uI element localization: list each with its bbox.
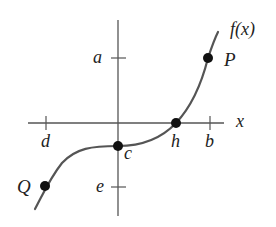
point-c (113, 141, 123, 151)
point-label-q: Q (17, 177, 31, 196)
point-label-c: c (124, 144, 132, 162)
point-p (203, 53, 213, 63)
x-tick-label-b: b (205, 132, 214, 150)
function-label: f(x) (230, 20, 255, 38)
point-label-p: P (224, 50, 236, 69)
point-q (40, 181, 50, 191)
y-tick-label-e: e (96, 177, 104, 195)
point-label-h: h (171, 132, 180, 150)
y-tick-label-a: a (93, 48, 102, 66)
function-curve (35, 32, 218, 209)
x-axis-label: x (236, 112, 244, 130)
function-graph: f(x) x a e d b P h c Q (0, 0, 276, 227)
x-tick-label-d: d (41, 132, 50, 150)
point-h (171, 118, 181, 128)
